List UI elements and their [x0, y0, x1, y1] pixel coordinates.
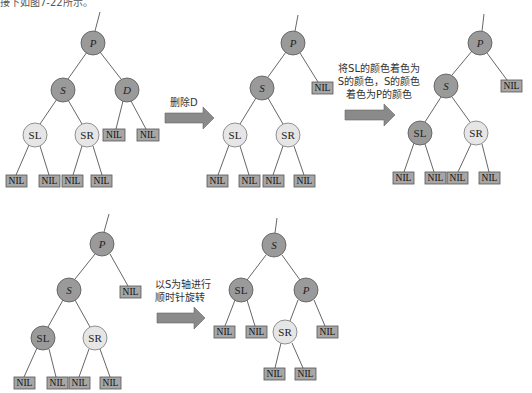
- svg-text:NIL: NIL: [17, 378, 33, 388]
- tree-node-p: P: [81, 31, 105, 55]
- svg-text:S: S: [259, 82, 265, 94]
- svg-text:NIL: NIL: [65, 176, 81, 186]
- svg-text:P: P: [98, 238, 106, 250]
- nil-leaf: NIL: [214, 326, 235, 338]
- step-1-caption: 删除D: [170, 96, 198, 109]
- tree-node-p: P: [281, 31, 305, 55]
- nil-leaf: NIL: [263, 175, 284, 187]
- step-2-caption: 将SL的颜色着色为 S的颜色，S的颜色 着色为P的颜色: [336, 62, 422, 101]
- tree-node-s: S: [434, 74, 458, 98]
- svg-text:NIL: NIL: [42, 176, 58, 186]
- tree-node-sr: SR: [276, 123, 300, 147]
- svg-text:SL: SL: [414, 127, 427, 139]
- nil-leaf: NIL: [62, 175, 83, 187]
- svg-text:NIL: NIL: [428, 173, 444, 183]
- tree-node-sl: SL: [23, 123, 47, 147]
- tree-node-p: P: [468, 31, 492, 55]
- svg-text:SL: SL: [37, 332, 50, 344]
- svg-text:NIL: NIL: [266, 176, 282, 186]
- svg-text:NIL: NIL: [450, 173, 466, 183]
- tree-node-sl: SL: [229, 278, 253, 302]
- svg-text:P: P: [89, 37, 97, 49]
- nil-leaf: NIL: [14, 377, 35, 389]
- nil-leaf: NIL: [425, 172, 446, 184]
- tree-node-sr: SR: [83, 326, 107, 350]
- step-3-caption-line: 顺时针旋转: [155, 291, 211, 304]
- tree-node-sr: SR: [75, 123, 99, 147]
- svg-text:SR: SR: [80, 129, 94, 141]
- nil-leaf: NIL: [120, 286, 141, 298]
- svg-text:SR: SR: [88, 332, 102, 344]
- nil-leaf: NIL: [207, 175, 228, 187]
- step-2-caption-line: S的颜色，S的颜色: [336, 75, 422, 88]
- nil-leaf: NIL: [6, 175, 27, 187]
- svg-text:SL: SL: [235, 284, 248, 296]
- tree-5-after-rotation: S SL P SR NIL NIL NIL NIL NIL: [214, 218, 338, 380]
- svg-text:S: S: [66, 284, 72, 296]
- step-3-caption: 以S为轴进行 顺时针旋转: [155, 278, 211, 304]
- tree-node-sr: SR: [464, 121, 488, 145]
- step-2-caption-line: 将SL的颜色着色为: [336, 62, 422, 75]
- nil-leaf: NIL: [294, 175, 315, 187]
- nil-leaf: NIL: [295, 368, 316, 380]
- svg-text:P: P: [476, 37, 484, 49]
- tree-node-sl: SL: [223, 123, 247, 147]
- tree-1-before-delete: P S D SL SR NIL NIL NIL NIL NIL NIL: [6, 12, 159, 187]
- svg-text:P: P: [302, 284, 310, 296]
- nil-leaf: NIL: [246, 326, 267, 338]
- svg-text:SL: SL: [229, 129, 242, 141]
- step-3-caption-line: 以S为轴进行: [155, 278, 211, 291]
- svg-text:SL: SL: [29, 129, 42, 141]
- tree-node-p: P: [90, 232, 114, 256]
- nil-leaf: NIL: [447, 172, 468, 184]
- svg-text:S: S: [60, 84, 66, 96]
- svg-text:NIL: NIL: [9, 176, 25, 186]
- svg-text:S: S: [443, 80, 449, 92]
- nil-leaf: NIL: [312, 82, 333, 94]
- svg-text:SR: SR: [281, 129, 295, 141]
- tree-node-s: S: [51, 78, 75, 102]
- svg-text:NIL: NIL: [396, 173, 412, 183]
- tree-node-sl: SL: [408, 121, 432, 145]
- svg-text:NIL: NIL: [72, 378, 88, 388]
- tree-node-p: P: [294, 278, 318, 302]
- svg-text:NIL: NIL: [217, 327, 233, 337]
- nil-leaf: NIL: [91, 175, 112, 187]
- nil-leaf: NIL: [393, 172, 414, 184]
- svg-text:NIL: NIL: [94, 176, 110, 186]
- svg-text:NIL: NIL: [210, 176, 226, 186]
- svg-text:NIL: NIL: [123, 287, 139, 297]
- svg-text:NIL: NIL: [50, 378, 66, 388]
- svg-text:NIL: NIL: [315, 83, 331, 93]
- svg-text:NIL: NIL: [103, 378, 119, 388]
- arrow-right-icon: [165, 107, 214, 129]
- svg-text:NIL: NIL: [482, 173, 498, 183]
- tree-node-s: S: [250, 76, 274, 100]
- nil-leaf: NIL: [239, 175, 260, 187]
- nil-leaf: NIL: [479, 172, 500, 184]
- svg-text:NIL: NIL: [320, 327, 336, 337]
- tree-4-before-rotation: P S SL SR NIL NIL NIL NIL NIL: [14, 214, 141, 389]
- svg-text:SR: SR: [469, 127, 483, 139]
- tree-node-sr: SR: [273, 320, 297, 344]
- tree-node-sl: SL: [31, 326, 55, 350]
- svg-text:SR: SR: [278, 326, 292, 338]
- nil-leaf: NIL: [100, 377, 121, 389]
- nil-leaf: NIL: [264, 368, 285, 380]
- svg-text:NIL: NIL: [249, 327, 265, 337]
- svg-text:NIL: NIL: [242, 176, 258, 186]
- step-2-caption-line: 着色为P的颜色: [336, 88, 422, 101]
- red-black-tree-deletion-diagram: P S D SL SR NIL NIL NIL NIL NIL NIL: [0, 0, 532, 393]
- svg-text:S: S: [271, 239, 277, 251]
- arrow-right-icon: [345, 104, 395, 126]
- tree-2-after-delete: P S SL SR NIL NIL NIL NIL NIL: [207, 15, 333, 187]
- nil-leaf: NIL: [69, 377, 90, 389]
- nil-leaf: NIL: [47, 377, 68, 389]
- svg-text:NIL: NIL: [504, 81, 520, 91]
- arrow-right-icon: [157, 307, 205, 329]
- nil-leaf: NIL: [103, 129, 125, 141]
- svg-text:D: D: [122, 84, 131, 96]
- svg-text:NIL: NIL: [267, 369, 283, 379]
- nil-leaf: NIL: [501, 80, 522, 92]
- svg-text:NIL: NIL: [298, 369, 314, 379]
